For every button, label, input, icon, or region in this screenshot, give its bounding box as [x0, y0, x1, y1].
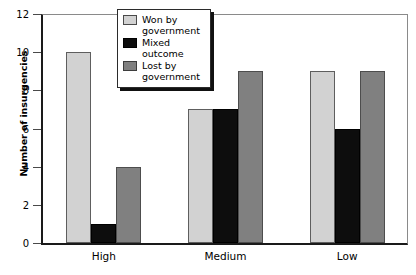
legend-label-lost: Lost by government	[142, 60, 206, 82]
y-axis-tick	[33, 90, 41, 91]
x-axis-label: Low	[337, 250, 358, 262]
chart-legend: Won by government Mixed outcome Lost by …	[117, 9, 211, 88]
legend-label-won: Won by government	[142, 14, 206, 36]
bars-layer	[43, 14, 408, 243]
legend-item-lost: Lost by government	[123, 60, 206, 82]
y-axis-tick-label: 2	[0, 199, 29, 210]
bar	[213, 109, 238, 243]
bar	[335, 129, 360, 244]
y-axis-tick-label: 6	[0, 123, 29, 134]
legend-item-mixed: Mixed outcome	[123, 37, 206, 59]
bar	[116, 167, 141, 243]
y-axis-tick	[33, 167, 41, 168]
y-axis-tick	[33, 14, 41, 15]
y-axis-tick	[33, 129, 41, 130]
bar	[310, 71, 335, 243]
bar	[238, 71, 263, 243]
y-axis-tick-label: 12	[0, 9, 29, 20]
y-axis-tick	[33, 52, 41, 53]
y-axis-tick-label: 8	[0, 85, 29, 96]
y-axis-tick-label: 0	[0, 238, 29, 249]
y-axis-tick-label: 4	[0, 161, 29, 172]
bar-group	[310, 14, 385, 243]
bar	[66, 52, 91, 243]
legend-item-won: Won by government	[123, 14, 206, 36]
legend-label-mixed: Mixed outcome	[142, 37, 206, 59]
legend-swatch-mixed-icon	[123, 38, 137, 48]
x-axis-label: High	[92, 250, 116, 262]
legend-swatch-won-icon	[123, 15, 137, 25]
legend-swatch-lost-icon	[123, 61, 137, 71]
y-axis-tick-label: 10	[0, 47, 29, 58]
y-axis-tick	[33, 243, 41, 244]
bar	[188, 109, 213, 243]
bar-chart: Number of insurgencies 024681012 HighMed…	[0, 0, 416, 275]
x-axis-label: Medium	[205, 250, 247, 262]
y-axis-tick	[33, 205, 41, 206]
bar	[360, 71, 385, 243]
bar	[91, 224, 116, 243]
